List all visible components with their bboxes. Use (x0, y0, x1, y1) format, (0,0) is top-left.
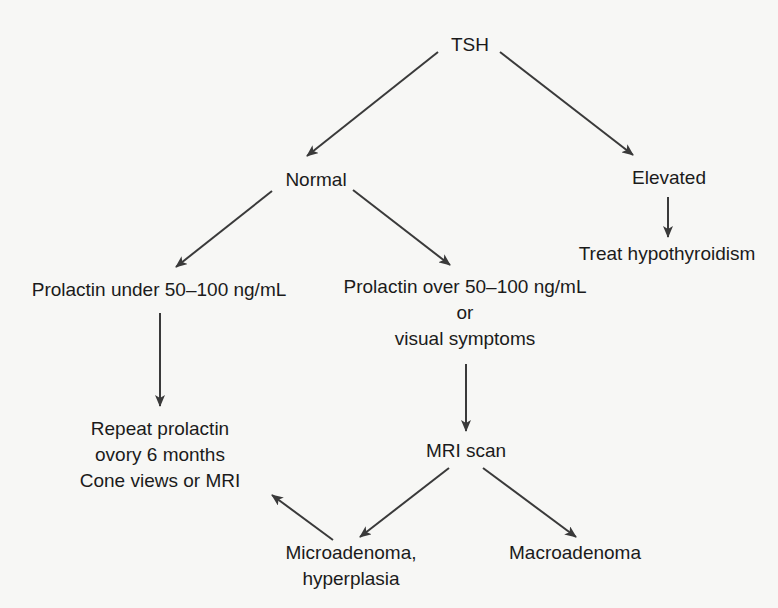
arrow-normal-to-prolactin-over (353, 190, 450, 265)
node-prolactin-under: Prolactin under 50–100 ng/mL (32, 277, 287, 303)
node-treat-hypothyroidism: Treat hypothyroidism (579, 241, 756, 267)
node-normal: Normal (285, 167, 346, 193)
node-prolactin-under-label: Prolactin under 50–100 ng/mL (32, 279, 287, 300)
arrow-tsh-to-normal (307, 52, 438, 156)
node-repeat-prolactin: Repeat prolactin ovory 6 months Cone vie… (80, 416, 241, 494)
node-prolactin-over-line-3: visual symptoms (344, 326, 587, 352)
node-microadenoma-line-1: Microadenoma, (286, 540, 417, 566)
node-elevated-label: Elevated (632, 167, 706, 188)
node-tsh-label: TSH (451, 34, 489, 55)
flowchart-diagram: TSH Normal Elevated Treat hypothyroidism… (0, 0, 778, 608)
arrow-mri-to-microadenoma (360, 468, 449, 537)
node-repeat-prolactin-line-1: Repeat prolactin (80, 416, 241, 442)
node-normal-label: Normal (285, 169, 346, 190)
arrow-microadenoma-to-repeat (272, 495, 333, 540)
node-tsh: TSH (451, 32, 489, 58)
arrow-normal-to-prolactin-under (176, 191, 272, 267)
node-prolactin-over: Prolactin over 50–100 ng/mL or visual sy… (344, 274, 587, 352)
node-microadenoma-line-2: hyperplasia (286, 566, 417, 592)
node-mri-scan: MRI scan (426, 438, 506, 464)
node-macroadenoma-label: Macroadenoma (509, 542, 641, 563)
node-microadenoma: Microadenoma, hyperplasia (286, 540, 417, 592)
node-elevated: Elevated (632, 165, 706, 191)
node-treat-hypothyroidism-label: Treat hypothyroidism (579, 243, 756, 264)
node-mri-scan-label: MRI scan (426, 440, 506, 461)
arrow-tsh-to-elevated (500, 52, 633, 155)
arrow-mri-to-macroadenoma (483, 468, 576, 537)
node-macroadenoma: Macroadenoma (509, 540, 641, 566)
node-repeat-prolactin-line-3: Cone views or MRI (80, 468, 241, 494)
node-repeat-prolactin-line-2: ovory 6 months (80, 442, 241, 468)
node-prolactin-over-line-1: Prolactin over 50–100 ng/mL (344, 274, 587, 300)
node-prolactin-over-line-2: or (344, 300, 587, 326)
